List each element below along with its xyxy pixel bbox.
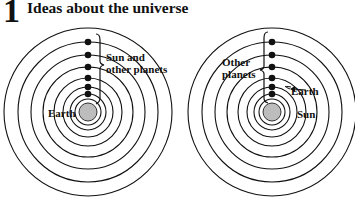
left-label-line2: other planets — [106, 63, 168, 75]
left-planet-dot — [85, 75, 92, 82]
left-planet-dot — [85, 84, 92, 91]
sun-centred-diagram — [188, 28, 355, 196]
diagrams: Sun and other planets Earth Other planet… — [0, 0, 355, 213]
right-label-line1: Other — [222, 56, 250, 68]
right-planet-dot — [269, 91, 276, 98]
left-center-label: Earth — [48, 107, 76, 119]
earth-centred-diagram — [4, 28, 172, 196]
right-planet-dot — [269, 39, 276, 46]
right-planet-dot — [269, 64, 276, 71]
right-label-line2: planets — [222, 68, 256, 80]
left-label-line1: Sun and — [106, 51, 145, 63]
left-planet-dot — [85, 39, 92, 46]
left-planet-dot — [85, 64, 92, 71]
left-planet-dot — [85, 91, 92, 98]
right-planet-dot — [269, 75, 276, 82]
right-arrow-label: Earth — [291, 85, 319, 97]
right-center-body — [263, 103, 281, 121]
left-center-body — [79, 103, 97, 121]
right-planet-dot — [269, 84, 276, 91]
right-planet-dot — [269, 52, 276, 59]
left-planet-dot — [85, 52, 92, 59]
right-center-label: Sun — [297, 108, 315, 120]
